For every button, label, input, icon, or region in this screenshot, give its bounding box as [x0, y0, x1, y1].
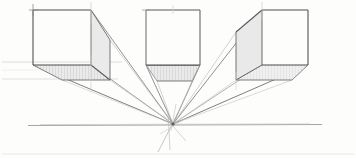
center-cube-bottom-face-shading [146, 65, 200, 81]
vanishing-point-mark [171, 122, 174, 125]
perspective-drawing-canvas [0, 0, 356, 158]
overshoot-down-right [163, 115, 186, 141]
ray-left-cube-bottom-back-right [110, 80, 173, 124]
center-cube [146, 10, 200, 81]
perspective-diagram-svg [0, 0, 356, 158]
overshoot-down [168, 112, 170, 150]
vanishing-point-dot [171, 122, 174, 125]
ray-right-cube-bottom-back-right [173, 80, 292, 124]
right-cube [236, 10, 308, 80]
